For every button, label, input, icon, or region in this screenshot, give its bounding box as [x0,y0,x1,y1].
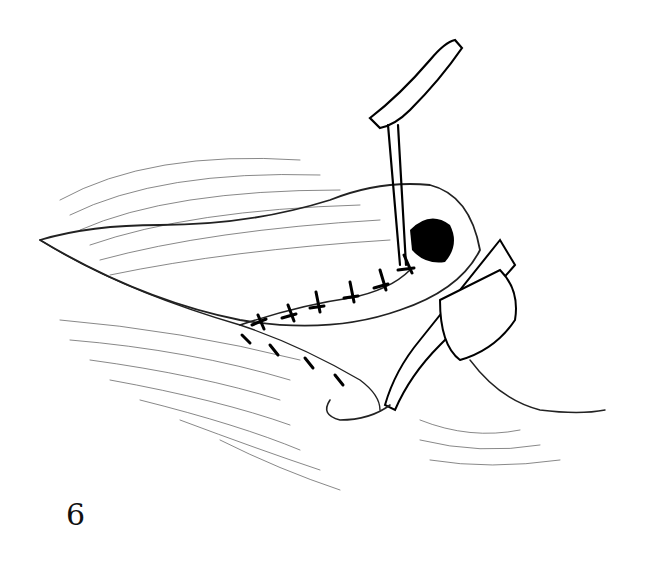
suture-thread [470,360,605,413]
surgical-illustration [0,0,657,567]
figure-number: 6 [66,497,85,532]
wound-opening [410,219,454,263]
sutures [242,255,414,385]
tissue-fold-outline [40,184,480,326]
needle-holder-icon [385,240,516,410]
incision-line [240,270,410,325]
